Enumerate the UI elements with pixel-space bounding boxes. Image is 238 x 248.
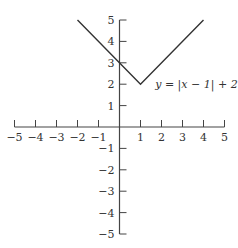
y-tick-label: 4 [108,35,115,48]
y-tick-label: −4 [98,207,114,220]
x-tick-label: 5 [221,131,228,144]
y-tick-label: −2 [98,164,114,177]
y-tick-label: −3 [98,185,114,198]
function-curve [78,20,204,84]
annotation-text: y = |x − 1| + 2 [154,78,237,92]
x-tick-label: 4 [200,131,207,144]
x-tick-label: −4 [27,131,43,144]
x-tick-label: −5 [6,131,22,144]
y-tick-label: −5 [98,228,114,241]
series-line [78,20,204,84]
y-tick-label: 5 [108,14,115,27]
x-tick-label: 1 [137,131,144,144]
x-tick-label: −2 [69,131,85,144]
y-tick-label: 3 [108,57,115,70]
x-tick-label: 2 [158,131,165,144]
absolute-value-graph: −5−4−3−2−112345−5−4−3−2−112345 y = |x − … [0,0,238,248]
x-tick-label: −3 [48,131,64,144]
y-tick-label: 2 [108,78,115,91]
axes [15,20,225,234]
x-tick-label: 3 [179,131,186,144]
y-tick-label: −1 [98,142,114,155]
equation-label: y = |x − 1| + 2 [154,78,237,92]
y-tick-label: 1 [108,100,115,113]
